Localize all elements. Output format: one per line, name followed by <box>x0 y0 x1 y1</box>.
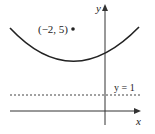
x-axis-arrow-icon <box>134 108 141 114</box>
focus-point <box>71 27 75 31</box>
parabola-curve <box>10 27 139 61</box>
x-axis-label: x <box>135 115 141 127</box>
y-axis-label: y <box>95 2 101 14</box>
parabola-diagram: (−2, 5) y x y = 1 <box>0 0 155 134</box>
focus-point-label: (−2, 5) <box>38 23 68 36</box>
y-axis-arrow-icon <box>102 4 108 11</box>
diagram-canvas: (−2, 5) y x y = 1 <box>0 0 155 134</box>
directrix-label: y = 1 <box>114 82 135 93</box>
